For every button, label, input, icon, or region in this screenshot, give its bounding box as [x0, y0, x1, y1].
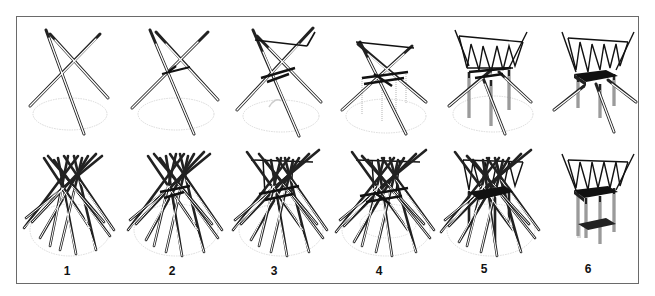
- diagram-step-3-top: [229, 22, 333, 146]
- tripod-lashed-drawing: [124, 22, 228, 146]
- two-level-tower-drawing: [544, 146, 648, 270]
- figure-header: [230, 0, 380, 2]
- diagram-step-5-top: [439, 22, 543, 146]
- step-label-5: 5: [432, 262, 536, 276]
- tipi-scaffold-drawing: [334, 146, 438, 270]
- tripod-drawing: [18, 22, 122, 146]
- diagram-step-1-top: [18, 22, 122, 146]
- step-label-1: 1: [15, 264, 119, 278]
- tripod-top-ring-drawing: [229, 22, 333, 146]
- step-label-3: 3: [222, 264, 326, 278]
- diagram-step-3-bottom: [229, 146, 333, 270]
- diagram-step-1-bottom: [18, 146, 122, 270]
- diagram-step-6-bottom: [544, 146, 648, 270]
- diagram-step-5-bottom: [439, 146, 543, 270]
- step-label-2: 2: [120, 264, 224, 278]
- tipi-lashed-drawing: [124, 146, 228, 270]
- step-label-6: 6: [536, 262, 640, 276]
- platform-tower-drawing: [544, 22, 648, 146]
- tower-zigzag-drawing: [439, 22, 543, 146]
- diagram-step-4-top: [334, 22, 438, 146]
- diagram-step-4-bottom: [334, 146, 438, 270]
- tripod-scaffold-drawing: [334, 22, 438, 146]
- diagram-step-2-bottom: [124, 146, 228, 270]
- step-label-4: 4: [327, 264, 431, 278]
- tipi-zigzag-drawing: [439, 146, 543, 270]
- tipi-top-ring-drawing: [229, 146, 333, 270]
- tipi-drawing: [18, 146, 122, 270]
- diagram-step-6-top: [544, 22, 648, 146]
- diagram-step-2-top: [124, 22, 228, 146]
